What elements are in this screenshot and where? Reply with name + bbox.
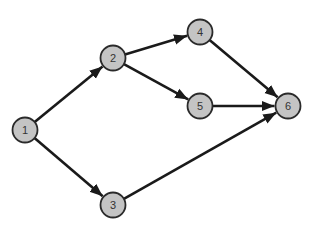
edge-4-6 <box>210 40 278 97</box>
node-2: 2 <box>101 46 126 71</box>
node-1: 1 <box>13 118 38 143</box>
node-6: 6 <box>276 94 301 119</box>
node-label: 3 <box>110 199 116 211</box>
node-label: 4 <box>197 26 203 38</box>
graph-canvas: 123456 <box>0 0 317 232</box>
node-5: 5 <box>188 94 213 119</box>
edges <box>35 36 278 199</box>
edge-1-2 <box>35 67 103 123</box>
node-label: 5 <box>197 100 203 112</box>
edge-2-4 <box>125 36 187 55</box>
node-label: 2 <box>110 52 116 64</box>
edge-3-6 <box>124 113 276 199</box>
node-3: 3 <box>101 193 126 218</box>
edge-1-3 <box>35 138 103 196</box>
nodes: 123456 <box>13 20 301 218</box>
node-label: 6 <box>285 100 291 112</box>
node-4: 4 <box>188 20 213 45</box>
edge-2-5 <box>124 64 188 99</box>
node-label: 1 <box>22 124 28 136</box>
